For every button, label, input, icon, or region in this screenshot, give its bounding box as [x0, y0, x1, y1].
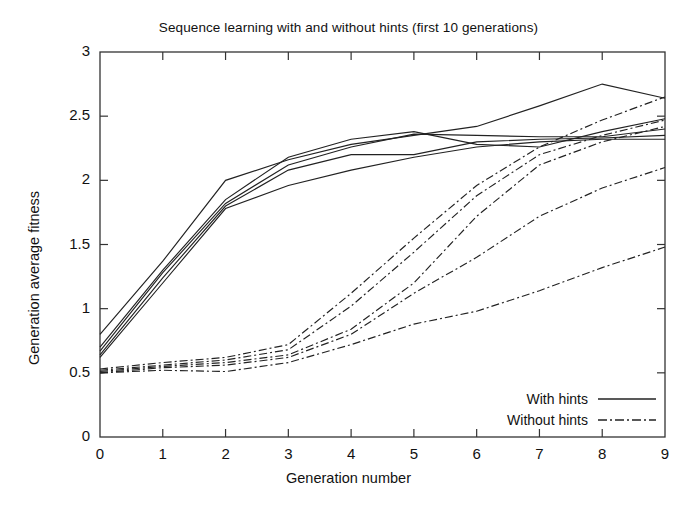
y-tick-label: 2 [44, 170, 90, 187]
y-tick-label: 2.5 [44, 106, 90, 123]
axis-ticks [100, 52, 665, 437]
data-line [100, 129, 665, 351]
x-tick-label: 9 [645, 445, 685, 462]
legend-key-solid [596, 393, 658, 405]
x-tick-label: 0 [80, 445, 120, 462]
data-line [100, 168, 665, 373]
y-tick-label: 3 [44, 42, 90, 59]
y-axis-label: Generation average fitness [26, 191, 42, 365]
y-tick-label: 0 [44, 427, 90, 444]
legend: With hints Without hints [480, 388, 658, 430]
data-line [100, 247, 665, 373]
data-series-group [100, 84, 665, 373]
legend-label-with-hints: With hints [527, 391, 588, 407]
x-tick-label: 3 [268, 445, 308, 462]
x-tick-label: 2 [206, 445, 246, 462]
axes-frame [100, 52, 665, 437]
y-tick-label: 1 [44, 299, 90, 316]
legend-label-without-hints: Without hints [507, 412, 588, 428]
legend-key-dash-dot [596, 414, 658, 426]
plot-canvas [0, 0, 697, 510]
x-tick-label: 7 [519, 445, 559, 462]
x-tick-label: 8 [582, 445, 622, 462]
y-tick-label: 0.5 [44, 363, 90, 380]
x-tick-label: 4 [331, 445, 371, 462]
figure: Sequence learning with and without hints… [0, 0, 697, 510]
x-tick-label: 5 [394, 445, 434, 462]
legend-item: Without hints [480, 409, 658, 430]
x-tick-label: 6 [457, 445, 497, 462]
data-line [100, 84, 665, 334]
x-tick-label: 1 [143, 445, 183, 462]
legend-item: With hints [480, 388, 658, 409]
x-axis-label: Generation number [0, 470, 697, 486]
y-tick-label: 1.5 [44, 235, 90, 252]
